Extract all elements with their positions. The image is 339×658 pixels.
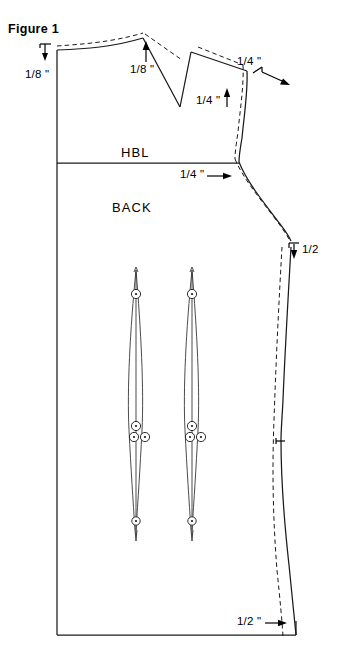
annotation-armhole-upper: 1/4 " xyxy=(237,55,261,67)
arrow-shoulder-tip xyxy=(143,41,150,62)
annotation-hem-side: 1/2 " xyxy=(237,615,261,627)
pattern-outline-solid xyxy=(57,38,296,635)
arrow-armhole-upper xyxy=(253,67,290,85)
annotation-shoulder-tip: 1/8 " xyxy=(130,63,154,75)
arrow-hem-side xyxy=(265,620,287,626)
pattern-drawing xyxy=(0,0,339,658)
annotation-side-seam-upper: 1/2 xyxy=(302,243,319,255)
hbl-label: HBL xyxy=(121,145,150,160)
waist-dart-left xyxy=(128,267,142,541)
back-piece-label: BACK xyxy=(112,200,152,215)
waist-dart-right xyxy=(184,267,198,541)
annotation-underarm-hbl: 1/4 " xyxy=(180,168,204,180)
pattern-figure: Figure 1 xyxy=(0,0,339,658)
annotation-armhole-lower: 1/4 " xyxy=(196,94,220,106)
annotation-neck-center-back: 1/8 " xyxy=(25,68,49,80)
arrow-armhole-lower xyxy=(224,88,230,107)
adjusted-outline-dashed xyxy=(57,33,289,636)
arrow-underarm-hbl xyxy=(207,173,232,179)
arrow-neck-center-back xyxy=(40,44,51,61)
